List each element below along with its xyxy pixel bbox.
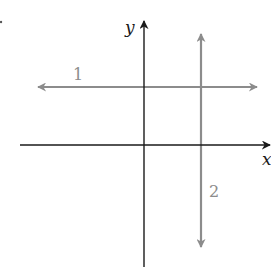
y-axis-label: y bbox=[124, 17, 135, 37]
line-1-label: 1 bbox=[73, 65, 83, 84]
coordinate-diagram: y x 1 2 bbox=[0, 0, 271, 267]
x-axis-label: x bbox=[262, 149, 271, 169]
edge-mark bbox=[0, 21, 2, 23]
line-2-label: 2 bbox=[209, 182, 219, 201]
